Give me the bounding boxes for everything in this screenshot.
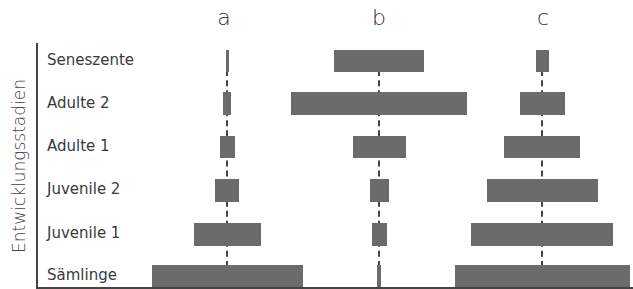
bar-a-adulte-2 [223,92,231,115]
bar-a-adulte-1 [220,136,235,158]
row-label: Adulte 2 [47,93,110,113]
bar-a-seneszente [226,50,229,72]
bar-a-sämlinge [152,265,303,287]
bar-b-seneszente [334,50,424,72]
bar-c-seneszente [536,50,549,72]
bar-c-sämlinge [455,265,630,287]
bar-c-juvenile-2 [487,179,598,202]
center-line-a [226,50,228,287]
row-label: Juvenile 1 [47,223,120,243]
bar-c-adulte-2 [520,92,565,115]
x-axis-line [36,287,633,289]
bar-b-adulte-1 [353,136,406,158]
bar-a-juvenile-2 [215,179,239,202]
bar-b-adulte-2 [291,92,467,115]
row-label: Seneszente [47,50,134,70]
y-axis-line [36,43,38,289]
center-line-c [541,50,543,287]
bar-c-adulte-1 [504,136,580,158]
bar-b-juvenile-2 [370,179,389,202]
row-label: Sämlinge [47,265,117,285]
y-axis-title: Entwicklungsstadien [9,79,29,253]
bar-a-juvenile-1 [194,223,261,246]
bar-b-sämlinge [377,265,381,287]
bar-b-juvenile-1 [372,223,387,246]
row-label: Juvenile 2 [47,179,120,199]
panel-title-b: b [372,4,386,32]
row-label: Adulte 1 [47,136,110,156]
bar-c-juvenile-1 [471,223,613,246]
panel-title-c: c [537,4,549,32]
panel-title-a: a [217,4,230,32]
center-line-b [378,50,380,287]
